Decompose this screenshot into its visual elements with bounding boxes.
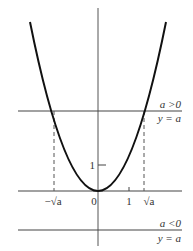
label-y-equals-a-lower: y = a	[157, 232, 182, 244]
label-x-one: 1	[126, 195, 132, 207]
label-y-equals-a-upper: y = a	[157, 112, 182, 124]
parabola-diagram: a >0 y = a a <0 y = a −√a 0 1 √a 1	[0, 0, 193, 251]
label-neg-root-a: −√a	[44, 195, 61, 207]
label-y-one: 1	[90, 159, 96, 171]
label-a-positive: a >0	[160, 98, 182, 110]
label-origin: 0	[91, 195, 97, 207]
label-a-negative: a <0	[160, 217, 182, 229]
label-pos-root-a: √a	[144, 195, 155, 207]
